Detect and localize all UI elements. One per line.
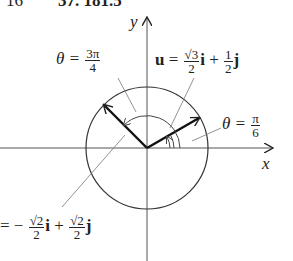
vector-v	[104, 105, 147, 148]
label-theta-3pi4: θ = 3π4	[56, 47, 101, 74]
leader-3pi4	[118, 78, 136, 112]
header-fragment-left: 16	[6, 0, 23, 11]
x-axis-label: x	[262, 154, 270, 174]
leader-u	[170, 78, 194, 128]
leader-pi6	[192, 128, 221, 141]
angle-arc-pi6	[167, 137, 170, 148]
header-fragment-right: 37. 181.5	[58, 0, 122, 11]
label-v-vector: = − √22i + √22j	[0, 214, 91, 241]
y-axis-label: y	[130, 12, 138, 32]
label-u-vector: u = √32i + 12j	[155, 48, 239, 75]
label-theta-pi6: θ = π6	[222, 112, 261, 139]
leader-v	[62, 135, 125, 207]
